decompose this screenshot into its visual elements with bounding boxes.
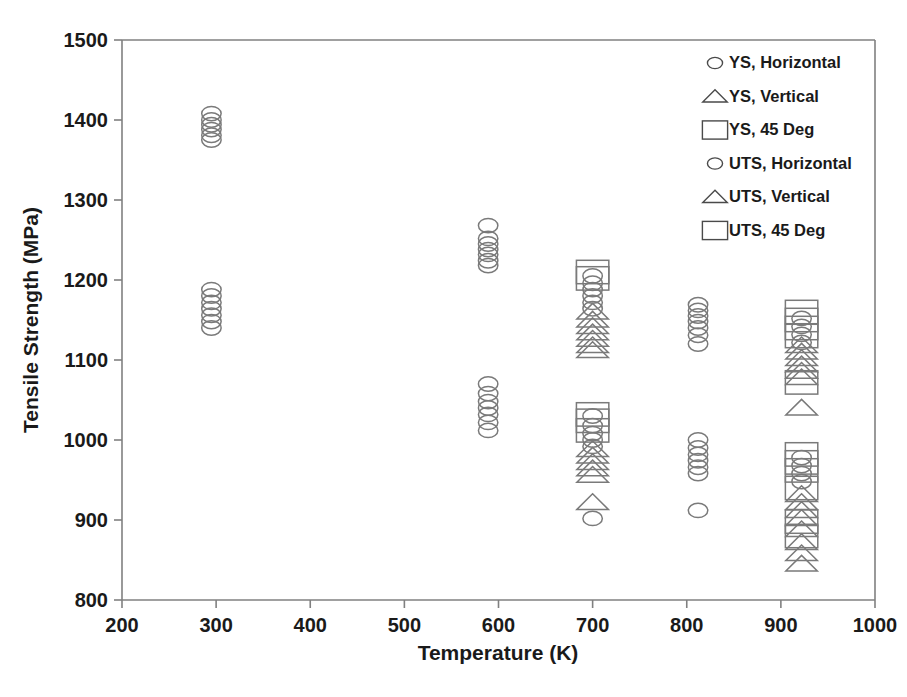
x-tick-label: 700 xyxy=(576,614,609,636)
data-point-circle xyxy=(688,433,707,447)
legend-item[interactable]: YS, Vertical xyxy=(703,87,819,105)
data-point-square xyxy=(576,267,608,290)
legend-marker-circle-icon xyxy=(707,57,722,68)
legend-item[interactable]: UTS, Horizontal xyxy=(707,154,851,172)
x-axis-labels: 2003004005006007008009001000 xyxy=(105,614,897,636)
data-points-layer xyxy=(202,106,818,571)
y-tick-label: 900 xyxy=(75,509,108,531)
x-axis-ticks xyxy=(122,600,875,608)
x-tick-label: 800 xyxy=(670,614,703,636)
data-point-square xyxy=(785,451,817,474)
y-axis-labels: 800900100011001200130014001500 xyxy=(64,29,109,611)
x-tick-label: 300 xyxy=(199,614,232,636)
x-tick-label: 900 xyxy=(764,614,797,636)
data-point-triangle xyxy=(577,342,609,358)
x-tick-label: 600 xyxy=(482,614,515,636)
x-axis-title: Temperature (K) xyxy=(418,641,579,664)
data-point-circle xyxy=(202,106,221,120)
y-tick-label: 1000 xyxy=(64,429,109,451)
legend-label: YS, Horizontal xyxy=(729,53,841,71)
x-tick-label: 500 xyxy=(388,614,421,636)
x-tick-label: 1000 xyxy=(853,614,898,636)
legend-label: UTS, 45 Deg xyxy=(729,221,825,239)
legend-label: YS, Vertical xyxy=(729,87,819,105)
data-point-circle xyxy=(478,386,497,400)
legend-label: YS, 45 Deg xyxy=(729,120,814,138)
x-tick-label: 200 xyxy=(105,614,138,636)
data-point-circle xyxy=(583,511,602,525)
y-tick-label: 1300 xyxy=(64,189,109,211)
legend-marker-triangle-icon xyxy=(703,90,728,102)
legend-item[interactable]: UTS, 45 Deg xyxy=(702,221,825,240)
data-point-circle xyxy=(478,415,497,429)
chart-canvas: 800900100011001200130014001500 200300400… xyxy=(0,0,907,697)
legend-marker-triangle-icon xyxy=(703,190,728,202)
y-tick-label: 1200 xyxy=(64,269,109,291)
series-square xyxy=(576,403,817,548)
data-point-square xyxy=(576,409,608,432)
y-tick-label: 1500 xyxy=(64,29,109,51)
data-point-circle xyxy=(478,423,497,437)
legend-item[interactable]: UTS, Vertical xyxy=(703,187,830,205)
y-tick-label: 1400 xyxy=(64,109,109,131)
series-circle xyxy=(202,106,812,351)
data-point-square xyxy=(576,260,608,283)
y-axis-ticks xyxy=(114,40,122,600)
data-point-circle xyxy=(688,503,707,517)
scatter-chart: 800900100011001200130014001500 200300400… xyxy=(0,0,907,697)
series-square xyxy=(576,260,817,394)
legend-marker-circle-icon xyxy=(707,158,722,169)
y-tick-label: 1100 xyxy=(65,349,108,371)
x-tick-label: 400 xyxy=(294,614,327,636)
series-circle xyxy=(202,282,812,525)
legend-marker-square-icon xyxy=(702,221,727,239)
data-point-circle xyxy=(478,401,497,415)
data-point-circle xyxy=(688,337,707,351)
data-point-square xyxy=(785,459,817,482)
data-point-square xyxy=(785,300,817,323)
data-point-triangle xyxy=(577,494,609,510)
legend-label: UTS, Horizontal xyxy=(729,154,852,172)
data-point-square xyxy=(785,443,817,466)
legend-marker-square-icon xyxy=(702,121,727,139)
legend-label: UTS, Vertical xyxy=(729,187,830,205)
y-tick-label: 800 xyxy=(75,589,108,611)
data-point-triangle xyxy=(786,399,818,415)
data-point-circle xyxy=(792,450,811,464)
data-point-triangle xyxy=(786,555,818,571)
legend-item[interactable]: YS, Horizontal xyxy=(707,53,840,71)
y-axis-title: Tensile Strength (MPa) xyxy=(19,207,42,433)
legend-item[interactable]: YS, 45 Deg xyxy=(702,120,814,139)
chart-legend: YS, HorizontalYS, VerticalYS, 45 DegUTS,… xyxy=(702,53,851,239)
